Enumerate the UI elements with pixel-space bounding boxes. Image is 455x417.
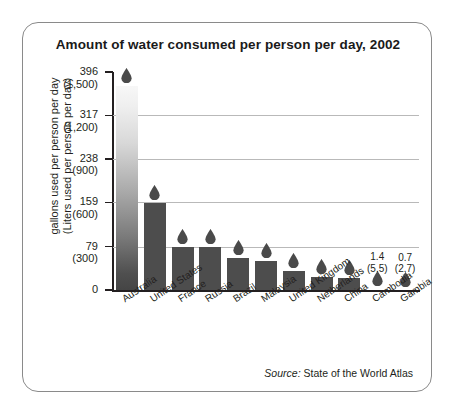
y-tick-label: 79 (300) xyxy=(28,240,98,265)
bar-australia xyxy=(116,86,138,290)
water-drop-icon xyxy=(121,68,132,83)
y-tick-mark xyxy=(105,158,113,159)
y-tick-mark xyxy=(105,289,113,290)
water-drop-icon xyxy=(261,243,272,258)
data-label-gambia: 0.7 (2.7) xyxy=(382,252,428,275)
y-tick-mark xyxy=(105,115,113,116)
y-tick-label: 317 (1,200) xyxy=(28,108,98,133)
y-tick-mark xyxy=(105,246,113,247)
source-prefix: Source: xyxy=(264,367,300,379)
y-tick-mark xyxy=(105,71,113,72)
y-tick-label: 0 xyxy=(28,283,98,296)
water-drop-icon xyxy=(205,229,216,244)
water-drop-icon xyxy=(233,240,244,255)
water-drop-icon xyxy=(149,185,160,200)
chart-card: Amount of water consumed per person per … xyxy=(22,22,432,392)
source-text: State of the World Atlas xyxy=(301,367,413,379)
y-tick-mark xyxy=(105,202,113,203)
y-tick-label: 396 (1,500) xyxy=(28,65,98,90)
y-tick-label: 159 (600) xyxy=(28,195,98,220)
plot-area: gallons used per person per day (Liters … xyxy=(23,23,433,393)
water-drop-icon xyxy=(288,253,299,268)
y-tick-label: 238 (900) xyxy=(28,152,98,177)
water-drop-icon xyxy=(177,229,188,244)
source-note: Source: State of the World Atlas xyxy=(264,367,413,379)
